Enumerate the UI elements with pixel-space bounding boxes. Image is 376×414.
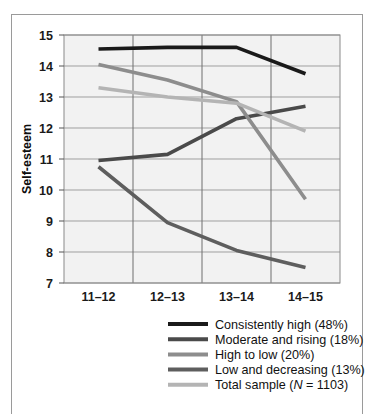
y-tick-label-15: 15 <box>39 29 53 43</box>
legend-label-1: Moderate and rising (18%) <box>215 333 363 347</box>
legend-label-4: Total sample (N = 1103) <box>215 378 348 392</box>
legend-label-2: High to low (20%) <box>215 348 314 362</box>
y-tick-label-8: 8 <box>46 246 53 260</box>
x-axis-tick-labels: 11–1212–1313–1414–15 <box>81 290 322 304</box>
x-tick-label-3: 14–15 <box>288 290 323 304</box>
y-tick-label-7: 7 <box>46 277 53 291</box>
y-tick-label-13: 13 <box>39 91 53 105</box>
y-axis-tick-labels: 789101112131415 <box>39 29 53 291</box>
y-axis-title: Self-esteem <box>20 124 34 194</box>
x-tick-label-0: 11–12 <box>81 290 115 304</box>
y-tick-label-9: 9 <box>46 215 53 229</box>
y-axis-tick-marks <box>59 35 64 283</box>
y-tick-label-14: 14 <box>39 60 53 74</box>
y-tick-label-10: 10 <box>39 184 53 198</box>
x-tick-label-2: 13–14 <box>219 290 254 304</box>
y-tick-label-11: 11 <box>40 153 53 167</box>
x-tick-label-1: 12–13 <box>150 290 185 304</box>
legend-label-3: Low and decreasing (13%) <box>215 363 365 377</box>
chart-legend: Consistently high (48%)Moderate and risi… <box>168 318 365 393</box>
y-tick-label-12: 12 <box>39 122 53 136</box>
legend-label-0: Consistently high (48%) <box>215 318 348 332</box>
